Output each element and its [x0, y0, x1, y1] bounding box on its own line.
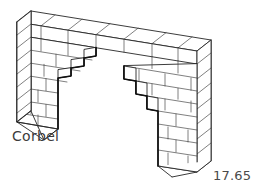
figure-number-label: 17.65 [213, 168, 251, 183]
corbel-figure: Corbel 17.65 [0, 0, 261, 191]
corbel-isometric-drawing [0, 0, 261, 191]
wall-right-end-face [197, 40, 211, 172]
wall-left-end-face [17, 11, 31, 122]
corbel-caption-label: Corbel [12, 128, 59, 144]
